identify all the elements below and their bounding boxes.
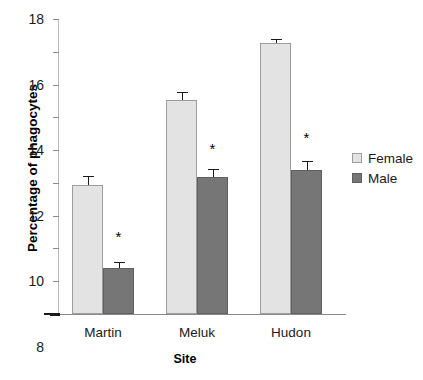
legend-label-male: Male: [368, 171, 397, 186]
y-tick-label: 18: [28, 11, 44, 27]
plot-area: 024681012141618 *** MartinMelukHudon: [58, 19, 338, 314]
error-bar-stem: [307, 161, 308, 170]
y-tick-label: 8: [36, 339, 44, 355]
y-tick-mark: 12: [53, 117, 59, 118]
bar-martin-male[interactable]: [103, 268, 134, 314]
x-tick-label-meluk: Meluk: [179, 325, 215, 340]
legend-item-female[interactable]: Female: [352, 148, 413, 168]
y-axis-line: [58, 19, 59, 314]
bar-meluk-female[interactable]: [166, 100, 197, 314]
y-tick-mark: 14: [53, 85, 59, 86]
error-bar-stem: [182, 92, 183, 100]
error-bar-cap: [114, 262, 125, 263]
error-bar-stem: [213, 169, 214, 177]
y-tick-mark: 10: [53, 150, 59, 151]
y-tick-mark: 0: [50, 314, 60, 316]
error-bar-cap: [302, 161, 313, 162]
error-bar-cap: [208, 169, 219, 170]
legend: Female Male: [352, 148, 413, 188]
y-tick-label: 16: [28, 77, 44, 93]
legend-item-male[interactable]: Male: [352, 168, 413, 188]
y-tick-mark: 16: [53, 52, 59, 53]
x-tick-label-hudon: Hudon: [271, 325, 311, 340]
error-bar-cap: [83, 176, 94, 177]
bar-meluk-male[interactable]: [197, 177, 228, 314]
significance-asterisk-hudon: *: [304, 130, 310, 145]
bar-hudon-male[interactable]: [291, 170, 322, 314]
bar-chart-figure: Percentage of phagocytes Site 0246810121…: [0, 0, 423, 380]
significance-asterisk-martin: *: [116, 229, 122, 244]
error-bar-cap: [177, 92, 188, 93]
y-tick-mark: 8: [53, 183, 59, 184]
legend-label-female: Female: [368, 151, 413, 166]
x-axis-line: [46, 314, 346, 315]
y-tick-mark: 2: [53, 281, 59, 282]
y-tick-mark: 4: [53, 248, 59, 249]
y-tick-mark: 18: [53, 19, 59, 20]
y-tick-mark: 6: [53, 216, 59, 217]
y-tick-label: 12: [28, 208, 44, 224]
legend-swatch-female-icon: [352, 153, 362, 163]
bar-martin-female[interactable]: [72, 185, 103, 314]
bar-hudon-female[interactable]: [260, 43, 291, 314]
y-tick-label: 14: [28, 142, 44, 158]
y-tick-label: 10: [28, 273, 44, 289]
error-bar-cap: [271, 39, 282, 40]
x-axis-label: Site: [0, 352, 370, 366]
error-bar-stem: [88, 176, 89, 184]
x-tick-label-martin: Martin: [84, 325, 122, 340]
legend-swatch-male-icon: [352, 173, 362, 183]
significance-asterisk-meluk: *: [210, 141, 216, 156]
